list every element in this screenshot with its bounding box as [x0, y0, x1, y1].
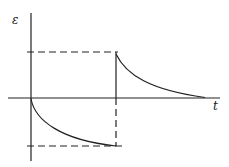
decay-curve: [116, 54, 205, 98]
relaxation-curve: [31, 99, 116, 146]
strain-time-diagram: [0, 0, 229, 167]
x-axis-label: t: [213, 100, 218, 112]
y-axis-label: ε: [12, 14, 18, 26]
